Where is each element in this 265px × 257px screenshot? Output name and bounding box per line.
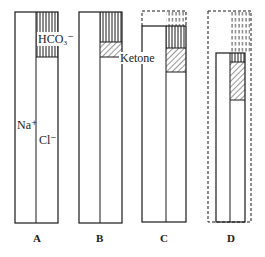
panel-c	[142, 11, 186, 222]
sodium-label: Na⁺	[17, 119, 37, 131]
panel-b	[79, 12, 122, 223]
expanded-segment	[230, 11, 250, 53]
panel-d	[208, 11, 251, 222]
bicarbonate-label: HCO₃⁻	[37, 32, 75, 46]
ketone-segment	[166, 48, 186, 72]
panel-label-d: D	[227, 233, 235, 244]
panel-label-c: C	[160, 233, 168, 244]
ketone-label: Ketone	[119, 52, 156, 64]
bicarbonate-segment	[100, 12, 122, 42]
panel-label-a: A	[33, 233, 41, 244]
ketone-segment	[230, 62, 245, 100]
panel-label-b: B	[96, 233, 103, 244]
bicarbonate-segment	[230, 53, 245, 62]
chloride-label: Cl⁻	[39, 134, 57, 146]
expanded-segment	[166, 11, 186, 26]
bicarbonate-segment	[166, 26, 186, 48]
